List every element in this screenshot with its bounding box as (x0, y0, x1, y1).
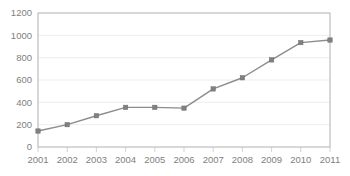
data-point-marker (240, 76, 244, 80)
chart-background (0, 0, 350, 176)
y-tick-label: 0 (27, 141, 32, 152)
line-chart: 020040060080010001200 200120022003200420… (0, 0, 350, 176)
y-tick-label: 800 (16, 52, 32, 63)
data-point-marker (299, 40, 303, 44)
y-tick-label: 1200 (11, 7, 32, 18)
x-tick-label: 2005 (144, 154, 165, 165)
x-tick-label: 2003 (86, 154, 107, 165)
data-point-marker (153, 105, 157, 109)
y-tick-label: 600 (16, 74, 32, 85)
data-point-marker (94, 114, 98, 118)
data-point-marker (182, 106, 186, 110)
x-tick-label: 2006 (173, 154, 194, 165)
data-point-marker (269, 58, 273, 62)
data-point-marker (36, 129, 40, 133)
data-point-marker (211, 87, 215, 91)
data-point-marker (123, 105, 127, 109)
data-point-marker (328, 38, 332, 42)
x-tick-label: 2002 (57, 154, 78, 165)
y-tick-label: 1000 (11, 30, 32, 41)
x-tick-label: 2008 (232, 154, 253, 165)
x-tick-label: 2004 (115, 154, 136, 165)
x-tick-label: 2011 (320, 154, 340, 165)
x-tick-label: 2010 (290, 154, 311, 165)
y-tick-label: 400 (16, 97, 32, 108)
chart-canvas: 020040060080010001200 200120022003200420… (0, 0, 350, 176)
y-tick-label: 200 (16, 119, 32, 130)
data-point-marker (65, 122, 69, 126)
x-axis-tick-labels: 2001200220032004200520062007200820092010… (27, 154, 340, 165)
x-tick-label: 2009 (261, 154, 282, 165)
x-tick-label: 2001 (27, 154, 48, 165)
x-tick-label: 2007 (203, 154, 224, 165)
